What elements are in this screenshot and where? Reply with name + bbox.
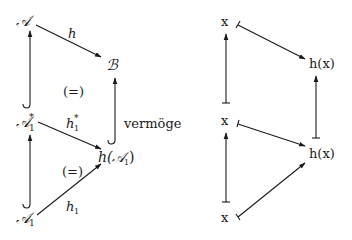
mapsto-arrow-mid [238, 124, 305, 146]
label-h1-star: h 1 * [66, 113, 79, 133]
hook-tail-3 [23, 204, 30, 208]
svg-text:*: * [74, 113, 79, 123]
left-diagram: 𝒜 h ℬ (=) vermöge 𝒜 1 * h 1 * h( � [16, 12, 182, 228]
node-A1: 𝒜 1 [16, 209, 35, 228]
diagram-canvas: 𝒜 h ℬ (=) vermöge 𝒜 1 * h 1 * h( � [0, 0, 352, 240]
right-diagram: x h(x) x h(x) x [221, 14, 335, 225]
svg-text:*: * [29, 111, 34, 122]
mapsto-tick-top [236, 21, 240, 28]
node-B: ℬ [106, 56, 119, 74]
label-vermoege: vermöge [123, 116, 182, 131]
svg-text:1: 1 [29, 218, 35, 228]
commute-mark-lower: (=) [62, 164, 83, 179]
svg-text:h(: h( [98, 149, 113, 165]
node-hx-top: h(x) [309, 56, 335, 71]
hook-tail-2 [108, 140, 115, 144]
svg-text:): ) [129, 149, 134, 165]
mapsto-tick-mid [237, 120, 239, 127]
hook-tail-1 [23, 104, 30, 108]
node-A1-star: 𝒜 1 * [16, 111, 35, 133]
node-hx-bottom: h(x) [309, 146, 335, 161]
node-x-mid: x [221, 113, 229, 128]
mapsto-arrow-top [238, 25, 305, 59]
label-h: h [68, 26, 76, 41]
svg-text:1: 1 [29, 123, 35, 133]
node-x-bottom: x [221, 210, 229, 225]
node-h-A1: h( 𝒜 1 ) [98, 149, 134, 167]
node-A: 𝒜 [16, 12, 35, 30]
node-x-top: x [221, 14, 229, 29]
svg-text:1: 1 [74, 207, 79, 216]
svg-text:1: 1 [74, 124, 79, 133]
commute-mark-upper: (=) [63, 84, 84, 99]
label-h1: h 1 [66, 199, 79, 216]
mapsto-tick-bottom [236, 214, 240, 220]
mapsto-arrow-bottom [238, 163, 305, 217]
